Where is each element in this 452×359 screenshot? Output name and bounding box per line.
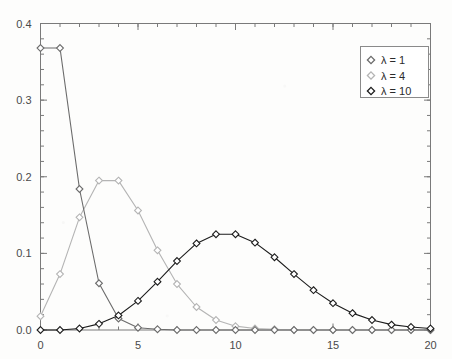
data-point-marker [135,207,142,214]
data-point-marker [213,327,220,334]
data-point-marker [76,325,83,332]
data-point-marker [57,271,64,278]
x-tick-label: 15 [327,339,339,351]
data-point-marker [96,320,103,327]
data-point-marker [369,327,376,334]
figure-canvas: 05101520 0.00.10.20.30.4 λ = 1λ = 4λ = 1… [0,0,452,359]
x-tick-label: 10 [229,339,241,351]
legend-label: λ = 4 [381,70,405,82]
y-tick-label: 0.4 [16,18,31,30]
data-point-marker [96,280,103,287]
x-tick-label: 0 [37,339,43,351]
data-point-marker [154,326,161,333]
data-point-marker [388,321,395,328]
data-point-marker [330,327,337,334]
data-point-marker [174,327,181,334]
legend-label: λ = 1 [381,54,405,66]
x-axis-tick-labels: 05101520 [37,339,436,351]
data-point-marker [369,317,376,324]
data-point-marker [154,247,161,254]
data-point-marker [57,45,64,52]
series-lambda-4 [37,177,434,333]
legend-label: λ = 10 [381,85,411,97]
poisson-pmf-chart: 05101520 0.00.10.20.30.4 λ = 1λ = 4λ = 1… [0,0,452,359]
data-point-marker [330,300,337,307]
x-tick-label: 5 [135,339,141,351]
data-point-marker [232,231,239,238]
y-axis-tick-labels: 0.00.10.20.30.4 [16,18,31,337]
data-point-marker [96,177,103,184]
data-point-marker [213,231,220,238]
data-point-marker [76,214,83,221]
data-point-marker [37,327,44,334]
y-tick-label: 0.3 [16,94,31,106]
y-tick-label: 0.0 [16,324,31,336]
data-point-marker [291,327,298,334]
data-point-marker [76,186,83,193]
data-point-marker [37,45,44,52]
data-point-marker [57,327,64,334]
chart-legend[interactable]: λ = 1λ = 4λ = 10 [361,47,429,98]
data-point-marker [349,310,356,317]
data-point-marker [349,327,356,334]
data-point-marker [115,177,122,184]
data-point-marker [213,317,220,324]
y-tick-label: 0.2 [16,171,31,183]
data-point-marker [193,327,200,334]
data-point-marker [310,327,317,334]
series-line [41,181,431,330]
y-tick-label: 0.1 [16,247,31,259]
data-point-marker [37,313,44,320]
x-tick-label: 20 [424,339,436,351]
